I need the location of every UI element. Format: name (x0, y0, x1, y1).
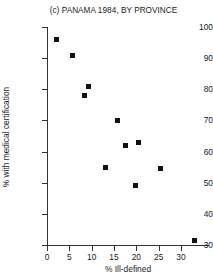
x-tick-label: 15 (102, 253, 126, 261)
plot-area (47, 27, 209, 245)
data-point (192, 238, 197, 243)
x-axis-title: % Ill-defined (47, 264, 209, 274)
chart-title: (c) PANAMA 1984, BY PROVINCE (0, 6, 213, 15)
x-tick-label: 30 (169, 253, 193, 261)
data-point (54, 37, 59, 42)
scatter-chart: (c) PANAMA 1984, BY PROVINCE 30405060708… (0, 0, 213, 280)
data-point (115, 118, 120, 123)
x-tick-mark (69, 246, 70, 251)
x-tick-mark (47, 246, 48, 251)
data-point (103, 165, 108, 170)
x-tick-mark (159, 246, 160, 251)
x-tick-label: 0 (35, 253, 59, 261)
x-tick-label: 5 (57, 253, 81, 261)
data-point (158, 166, 163, 171)
data-point (136, 140, 141, 145)
data-point (86, 84, 91, 89)
x-tick-label: 25 (147, 253, 171, 261)
data-point (70, 53, 75, 58)
data-point (123, 143, 128, 148)
data-point (133, 183, 138, 188)
data-point (82, 93, 87, 98)
x-tick-label: 10 (80, 253, 104, 261)
x-tick-mark (136, 246, 137, 251)
x-tick-mark (181, 246, 182, 251)
x-tick-mark (114, 246, 115, 251)
y-axis-title: % with medical certification (1, 28, 12, 246)
x-tick-mark (92, 246, 93, 251)
x-tick-label: 20 (124, 253, 148, 261)
